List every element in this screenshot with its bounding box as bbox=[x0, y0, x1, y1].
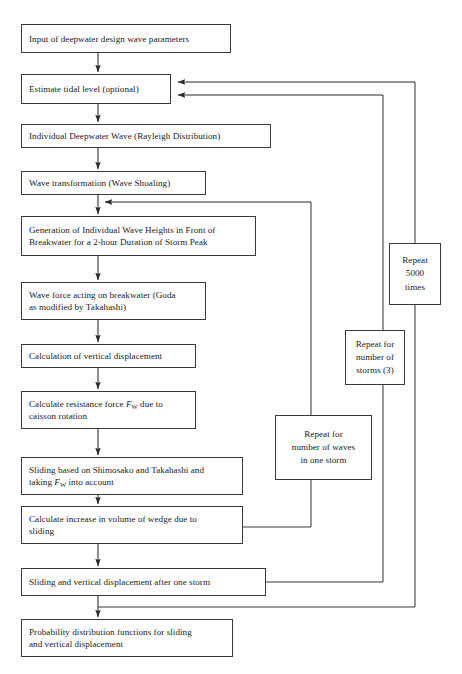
node-calc-increase-volume-label: Calculate increase in volume of wedge du… bbox=[29, 513, 197, 537]
node-calc-resistance-symbol: F bbox=[126, 399, 132, 409]
node-wave-transformation-label: Wave transformation (Wave Shoaling) bbox=[29, 177, 170, 189]
node-estimate-tidal[interactable]: Estimate tidal level (optional) bbox=[21, 74, 171, 104]
node-calc-vertical-displacement[interactable]: Calculation of vertical displacement bbox=[21, 344, 196, 368]
node-sliding-shimosako[interactable]: Sliding based on Shimosako and Takahashi… bbox=[21, 457, 243, 495]
node-wave-force-label: Wave force acting on breakwater (Goda as… bbox=[29, 289, 176, 313]
node-calc-resistance-force[interactable]: Calculate resistance force FW due to cai… bbox=[21, 391, 196, 429]
node-generation-heights[interactable]: Generation of Individual Wave Heights in… bbox=[21, 216, 256, 256]
node-sliding-after-storm[interactable]: Sliding and vertical displacement after … bbox=[21, 568, 266, 596]
node-input-deepwater[interactable]: Input of deepwater design wave parameter… bbox=[21, 24, 231, 53]
node-estimate-tidal-label: Estimate tidal level (optional) bbox=[29, 83, 139, 95]
node-calc-increase-volume[interactable]: Calculate increase in volume of wedge du… bbox=[21, 506, 243, 544]
node-input-deepwater-label: Input of deepwater design wave parameter… bbox=[29, 33, 189, 45]
node-calc-resistance-subscript: W bbox=[132, 403, 138, 410]
flowchart-canvas: Input of deepwater design wave parameter… bbox=[0, 0, 462, 674]
node-individual-deepwater[interactable]: Individual Deepwater Wave (Rayleigh Dist… bbox=[21, 124, 271, 148]
loop-box-repeat-5000-label: Repeat 5000 times bbox=[402, 254, 428, 294]
node-wave-force[interactable]: Wave force acting on breakwater (Goda as… bbox=[21, 282, 206, 320]
loop-box-repeat-storms-label: Repeat for number of storms (3) bbox=[356, 338, 395, 378]
node-probability-functions[interactable]: Probability distribution functions for s… bbox=[21, 619, 233, 657]
node-probability-functions-label: Probability distribution functions for s… bbox=[29, 626, 192, 650]
node-calc-vertical-displacement-label: Calculation of vertical displacement bbox=[29, 350, 162, 362]
loop-box-repeat-waves[interactable]: Repeat for number of waves in one storm bbox=[275, 415, 372, 480]
node-calc-resistance-force-label: Calculate resistance force FW due to cai… bbox=[29, 398, 163, 422]
loop-box-repeat-storms[interactable]: Repeat for number of storms (3) bbox=[345, 330, 405, 385]
node-sliding-shimosako-label: Sliding based on Shimosako and Takahashi… bbox=[29, 464, 204, 488]
node-individual-deepwater-label: Individual Deepwater Wave (Rayleigh Dist… bbox=[29, 130, 220, 142]
loop-box-repeat-5000[interactable]: Repeat 5000 times bbox=[389, 243, 441, 305]
node-sliding-shimosako-suffix: into account bbox=[66, 477, 114, 487]
node-sliding-after-storm-label: Sliding and vertical displacement after … bbox=[29, 576, 210, 588]
node-wave-transformation[interactable]: Wave transformation (Wave Shoaling) bbox=[21, 171, 206, 195]
node-sliding-shimosako-subscript: W bbox=[60, 481, 66, 488]
node-calc-resistance-prefix: Calculate resistance force bbox=[29, 399, 126, 409]
node-generation-heights-label: Generation of Individual Wave Heights in… bbox=[29, 224, 215, 248]
loop-box-repeat-waves-label: Repeat for number of waves in one storm bbox=[292, 428, 355, 468]
